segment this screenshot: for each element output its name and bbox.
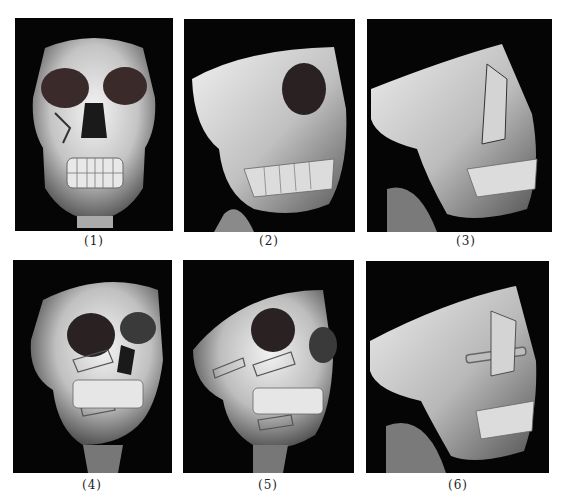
panel-5-postop-oblique-skull: [183, 260, 354, 473]
panel-1-frontal-skull: [15, 18, 173, 231]
panel-4-postop-frontal-skull: [13, 260, 172, 473]
panel-5-label: (5): [238, 478, 298, 492]
skull-postop-lateral-image: [366, 261, 549, 473]
panel-3-label: (3): [436, 234, 496, 248]
panel-2-label: (2): [239, 234, 299, 248]
panel-4-label: (4): [62, 478, 122, 492]
panel-2-oblique-skull: [184, 19, 355, 232]
skull-postop-oblique-image: [183, 260, 354, 473]
panel-6-label: (6): [428, 478, 488, 492]
panel-3-lateral-skull: [367, 19, 552, 232]
panel-1-label: (1): [64, 234, 124, 248]
skull-oblique-image: [184, 19, 355, 232]
skull-lateral-image: [367, 19, 552, 232]
skull-postop-frontal-image: [13, 260, 172, 473]
skull-frontal-image: [15, 18, 173, 231]
panel-6-postop-lateral-skull: [366, 261, 549, 473]
